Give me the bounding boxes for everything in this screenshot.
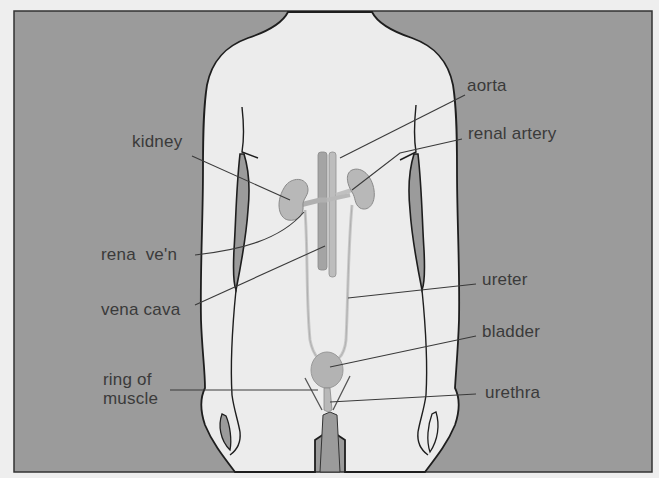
- urinary-system-diagram: aorta renal artery kidney rena ve'n vena…: [0, 0, 659, 478]
- label-renal-vein: rena ve'n: [101, 245, 177, 264]
- label-kidney: kidney: [132, 132, 182, 151]
- label-ring-of-muscle: ring of muscle: [103, 370, 158, 408]
- label-urethra: urethra: [485, 383, 540, 402]
- aorta: [329, 152, 336, 277]
- label-renal-artery: renal artery: [468, 124, 556, 143]
- label-bladder: bladder: [482, 322, 540, 341]
- vena-cava: [318, 152, 327, 270]
- label-vena-cava: vena cava: [101, 300, 180, 319]
- leg-gap: [320, 412, 340, 472]
- diagram-canvas: [0, 0, 659, 478]
- label-aorta: aorta: [467, 76, 507, 95]
- label-ureter: ureter: [482, 270, 528, 289]
- bladder-organ: [311, 352, 343, 388]
